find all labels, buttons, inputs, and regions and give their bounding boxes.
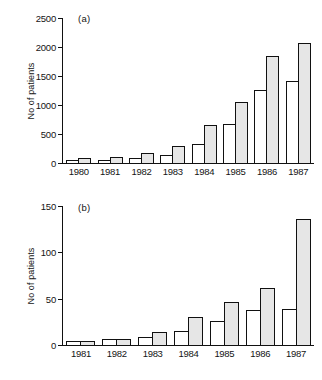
bar-shaded <box>204 125 217 163</box>
bar-group <box>220 18 251 163</box>
panel-b-bars <box>63 206 314 345</box>
xaxis-tick-label: 1984 <box>194 166 214 177</box>
panel-a: (a) No of patients 05001000150020002500 … <box>0 0 322 190</box>
yaxis-tick-label: 0 <box>51 340 56 351</box>
panel-b: (b) No of patients 050100150 19811982198… <box>0 190 322 380</box>
bar-group <box>126 18 157 163</box>
bar-shaded <box>296 219 311 345</box>
bar-group <box>189 18 220 163</box>
xaxis-tick-label: 1986 <box>250 348 270 359</box>
bar-shaded <box>224 302 239 345</box>
panel-b-xaxis-labels: 1981198219831984198519861987 <box>63 345 314 361</box>
xaxis-tick-label: 1982 <box>131 166 151 177</box>
bar-open <box>282 309 297 345</box>
panel-a-plot-area: 05001000150020002500 1980198119821983198… <box>62 18 314 164</box>
xaxis-tick-label: 1982 <box>107 348 127 359</box>
bar-group <box>283 18 314 163</box>
bar-open <box>174 331 189 345</box>
yaxis-tick-label: 0 <box>51 158 56 169</box>
xaxis-tick-label: 1980 <box>69 166 89 177</box>
bar-group <box>171 206 207 345</box>
bar-shaded <box>298 43 311 163</box>
yaxis-tick-label: 2500 <box>36 13 56 24</box>
bar-shaded <box>188 317 203 345</box>
panel-b-yaxis-title: No of patients <box>26 221 36 331</box>
bar-shaded <box>266 56 279 163</box>
xaxis-tick-label: 1987 <box>288 166 308 177</box>
bar-shaded <box>141 153 154 163</box>
yaxis-tick-label: 2000 <box>36 42 56 53</box>
bar-open <box>138 337 153 345</box>
yaxis-tick-label: 100 <box>41 247 56 258</box>
xaxis-tick-label: 1984 <box>179 348 199 359</box>
xaxis-tick-label: 1983 <box>163 166 183 177</box>
bar-group <box>278 206 314 345</box>
bar-open <box>246 310 261 345</box>
yaxis-tick-label: 150 <box>41 201 56 212</box>
bar-group <box>206 206 242 345</box>
bar-group <box>99 206 135 345</box>
yaxis-tick-label: 50 <box>46 293 56 304</box>
bar-group <box>251 18 282 163</box>
bar-shaded <box>172 146 185 163</box>
xaxis-tick-label: 1985 <box>214 348 234 359</box>
panel-a-yaxis-title: No of patients <box>26 36 36 146</box>
panel-b-plot-area: 050100150 1981198219831984198519861987 <box>62 206 314 346</box>
bar-group <box>63 18 94 163</box>
bar-shaded <box>235 102 248 163</box>
bar-group <box>63 206 99 345</box>
xaxis-tick-label: 1985 <box>226 166 246 177</box>
bar-group <box>94 18 125 163</box>
bar-group <box>135 206 171 345</box>
xaxis-tick-label: 1981 <box>71 348 91 359</box>
bar-group <box>242 206 278 345</box>
bar-shaded <box>260 288 275 345</box>
xaxis-tick-label: 1987 <box>286 348 306 359</box>
xaxis-tick-label: 1983 <box>143 348 163 359</box>
xaxis-tick-label: 1986 <box>257 166 277 177</box>
bar-shaded <box>152 332 167 345</box>
bar-open <box>210 321 225 345</box>
panel-a-bars <box>63 18 314 163</box>
yaxis-tick-label: 1500 <box>36 71 56 82</box>
bar-group <box>157 18 188 163</box>
figure-two-panel-bar-charts: (a) No of patients 05001000150020002500 … <box>0 0 322 380</box>
yaxis-tick-label: 1000 <box>36 100 56 111</box>
panel-a-xaxis-labels: 19801981198219831984198519861987 <box>63 163 314 179</box>
panel-a-yaxis-title-wrap: No of patients <box>14 18 36 164</box>
yaxis-tick-label: 500 <box>41 129 56 140</box>
xaxis-tick-label: 1981 <box>100 166 120 177</box>
panel-b-yaxis-title-wrap: No of patients <box>14 206 36 346</box>
